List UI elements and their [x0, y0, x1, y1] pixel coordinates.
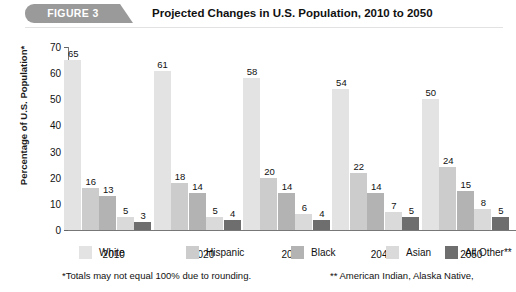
- bar-value-label: 14: [186, 181, 210, 192]
- footnote-totals: *Totals may not equal 100% due to roundi…: [62, 270, 251, 281]
- bar-all-other-2020[interactable]: 4: [224, 220, 241, 230]
- y-tick-label: 50: [35, 94, 61, 105]
- bar-all-other-2040[interactable]: 5: [402, 217, 419, 230]
- bar-white-2020[interactable]: 61: [154, 71, 171, 230]
- chart-footnotes: *Totals may not equal 100% due to roundi…: [0, 270, 516, 292]
- bar-group: 502415852050: [427, 47, 516, 230]
- bar-value-label: 54: [329, 77, 353, 88]
- figure-number-badge: FIGURE 3: [25, 4, 133, 23]
- bar-white-2010[interactable]: 65: [64, 60, 81, 230]
- bar-value-label: 18: [168, 171, 192, 182]
- y-tick-label: 70: [35, 42, 61, 53]
- y-tick-label: 20: [35, 172, 61, 183]
- bar-value-label: 4: [310, 208, 334, 219]
- legend-swatch: [445, 246, 458, 259]
- bar-white-2030[interactable]: 58: [243, 78, 260, 230]
- bar-all-other-2010[interactable]: 3: [134, 222, 151, 230]
- bar-value-label: 20: [257, 166, 281, 177]
- bar-chart: Percentage of U.S. Population* 010203040…: [0, 32, 516, 238]
- legend-swatch: [291, 246, 304, 259]
- header-divider: [25, 27, 503, 28]
- legend-item-white[interactable]: White: [79, 244, 125, 260]
- bar-value-label: 5: [399, 205, 423, 216]
- bar-value-label: 50: [419, 87, 443, 98]
- bar-value-label: 65: [61, 48, 85, 59]
- bar-value-label: 4: [221, 208, 245, 219]
- bar-white-2040[interactable]: 54: [332, 89, 349, 230]
- x-axis-line: [68, 230, 516, 231]
- bar-value-label: 13: [96, 184, 120, 195]
- bar-value-label: 14: [364, 181, 388, 192]
- y-tick-label: 60: [35, 68, 61, 79]
- legend-label: Hispanic: [206, 247, 244, 258]
- y-tick-label: 40: [35, 120, 61, 131]
- bar-hispanic-2050[interactable]: 24: [439, 167, 456, 230]
- legend-swatch: [386, 246, 399, 259]
- bar-value-label: 24: [436, 155, 460, 166]
- chart-legend: WhiteHispanicBlackAsianAll Other**: [0, 244, 516, 264]
- figure-number-label: FIGURE 3: [25, 4, 121, 23]
- plot-area: 6516135320106118145420205820146420305422…: [69, 47, 516, 230]
- figure-title: Projected Changes in U.S. Population, 20…: [152, 4, 433, 23]
- legend-label: White: [99, 247, 125, 258]
- y-tick-label: 10: [35, 198, 61, 209]
- bar-value-label: 5: [489, 205, 513, 216]
- footnote-all-other: ** American Indian, Alaska Native,: [330, 270, 474, 281]
- legend-item-all-other[interactable]: All Other**: [445, 244, 512, 260]
- bar-group: 582014642030: [248, 47, 337, 230]
- bar-value-label: 61: [151, 59, 175, 70]
- bar-value-label: 14: [275, 181, 299, 192]
- y-tick-label: 30: [35, 146, 61, 157]
- bar-group: 542214752040: [337, 47, 426, 230]
- bar-value-label: 15: [454, 179, 478, 190]
- legend-item-black[interactable]: Black: [291, 244, 335, 260]
- legend-label: Asian: [406, 247, 431, 258]
- y-axis-ticks: 010203040506070: [36, 32, 68, 230]
- legend-item-hispanic[interactable]: Hispanic: [186, 244, 244, 260]
- y-axis-title: Percentage of U.S. Population*: [18, 41, 29, 191]
- bar-value-label: 3: [131, 210, 155, 221]
- bar-asian-2020[interactable]: 5: [206, 217, 223, 230]
- legend-label: Black: [311, 247, 335, 258]
- bar-all-other-2050[interactable]: 5: [492, 217, 509, 230]
- legend-item-asian[interactable]: Asian: [386, 244, 431, 260]
- bar-group: 651613532010: [69, 47, 158, 230]
- legend-swatch: [79, 246, 92, 259]
- legend-swatch: [186, 246, 199, 259]
- bar-value-label: 58: [240, 66, 264, 77]
- figure-header: FIGURE 3 Projected Changes in U.S. Popul…: [0, 0, 516, 28]
- y-tick-label: 0: [35, 225, 61, 236]
- bar-all-other-2030[interactable]: 4: [313, 220, 330, 230]
- legend-label: All Other**: [465, 247, 512, 258]
- bar-value-label: 22: [347, 161, 371, 172]
- bar-group: 611814542020: [158, 47, 247, 230]
